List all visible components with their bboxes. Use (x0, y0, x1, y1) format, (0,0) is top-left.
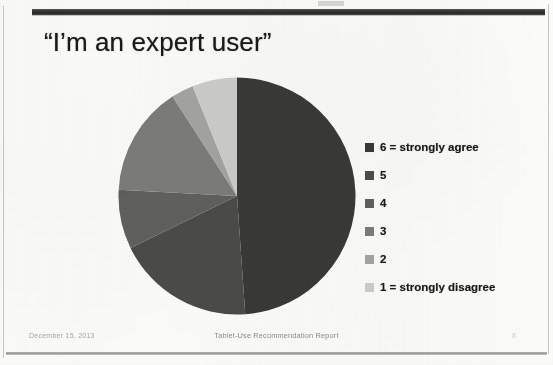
legend-item-3[interactable]: 3 (364, 217, 550, 245)
slide-footer: December 15, 2013 Tablet-Use Recommendat… (0, 330, 553, 346)
scan-edge-mark (318, 1, 344, 6)
page-left-border (3, 6, 4, 358)
legend-label-4: 4 (380, 197, 386, 210)
pie-chart (118, 77, 356, 315)
footer-page-number: 8 (504, 331, 524, 341)
legend-swatch-icon-1 (365, 283, 374, 292)
legend-item-5[interactable]: 5 (364, 161, 550, 189)
slide-header-bar (32, 9, 545, 15)
legend-swatch-icon-2 (365, 255, 374, 264)
pie-chart-svg (118, 77, 356, 315)
slide-page: “I’m an expert user” 6 = strongly agree … (0, 0, 553, 365)
legend-swatch-icon-3 (365, 227, 374, 236)
legend-item-1[interactable]: 1 = strongly disagree (364, 273, 550, 301)
legend-item-2[interactable]: 2 (364, 245, 550, 273)
pie-slice[interactable] (237, 78, 355, 315)
legend-item-6[interactable]: 6 = strongly agree (364, 133, 550, 161)
legend-label-1: 1 = strongly disagree (380, 281, 495, 294)
legend-label-2: 2 (380, 253, 386, 266)
footer-report-title: Tablet-Use Recommendation Report (0, 331, 553, 341)
legend-label-6: 6 = strongly agree (380, 141, 479, 154)
legend-item-4[interactable]: 4 (364, 189, 550, 217)
page-title: “I’m an expert user” (44, 26, 271, 58)
legend-swatch-icon-5 (365, 171, 374, 180)
legend-label-5: 5 (380, 169, 386, 182)
legend-swatch-icon-4 (365, 199, 374, 208)
pie-slice-group (119, 78, 356, 315)
legend-label-3: 3 (380, 225, 386, 238)
legend-swatch-icon-6 (365, 143, 374, 152)
chart-legend: 6 = strongly agree 5 4 3 2 1 = strongly … (364, 133, 550, 301)
page-bottom-border (6, 352, 547, 355)
